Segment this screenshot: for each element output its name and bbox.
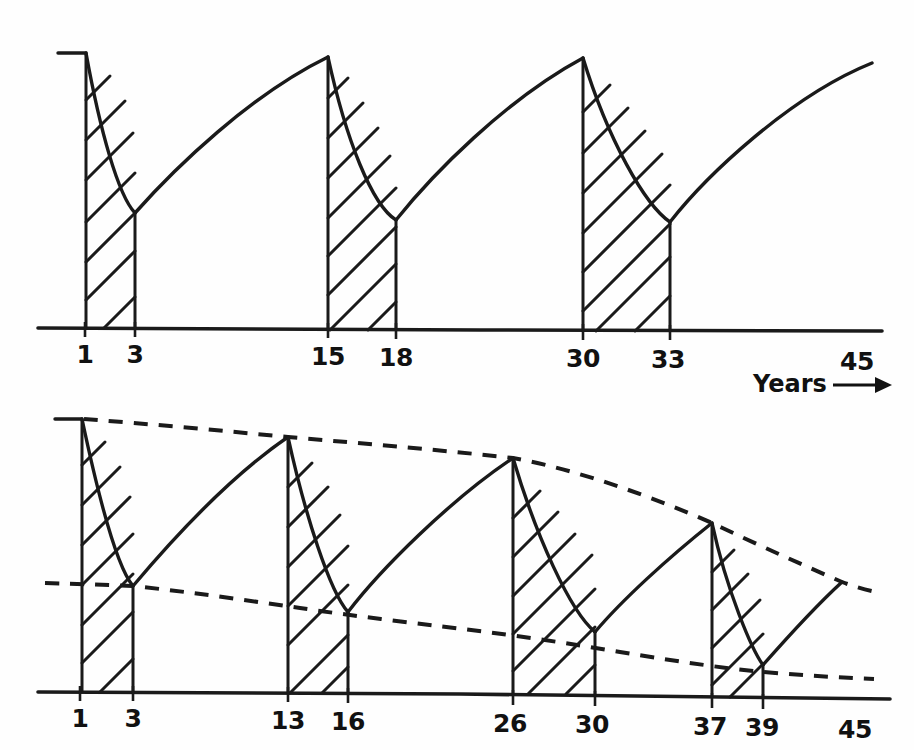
upper-interval-2-hatching bbox=[328, 78, 396, 330]
lower-tick-label-5: 30 bbox=[575, 710, 609, 739]
lower-interval-1-hatching bbox=[82, 442, 133, 692]
lower-tick-label-8: 45 bbox=[838, 715, 872, 744]
sawtooth-decay-figure: 1 3 15 18 30 33 45 --> Years bbox=[0, 0, 914, 750]
lower-interval-3-hatching bbox=[513, 491, 595, 694]
lower-recovery-curve-1 bbox=[133, 437, 288, 586]
upper-recovery-curve-1 bbox=[135, 57, 328, 213]
upper-decay-curve-2 bbox=[328, 57, 396, 220]
upper-recovery-curve-2 bbox=[396, 58, 583, 220]
upper-tick-label-1: 3 bbox=[127, 340, 144, 369]
lower-recovery-curve-4 bbox=[763, 582, 842, 665]
lower-tick-label-4: 26 bbox=[493, 709, 527, 738]
lower-tick-label-0: 1 bbox=[72, 704, 89, 733]
lower-tick-label-1: 3 bbox=[125, 704, 142, 733]
lower-tick-label-6: 37 bbox=[693, 712, 727, 741]
lower-recovery-curve-2 bbox=[348, 458, 513, 612]
upper-chart: 1 3 15 18 30 33 45 bbox=[38, 53, 882, 376]
lower-decay-curve-2 bbox=[288, 437, 348, 612]
lower-tick-label-7: 39 bbox=[745, 713, 779, 742]
lower-upper-envelope bbox=[84, 419, 882, 593]
lower-lower-envelope bbox=[45, 583, 874, 679]
upper-tick-label-2: 15 bbox=[311, 342, 345, 371]
upper-tick-label-0: 1 bbox=[77, 340, 94, 369]
upper-tick-label-5: 33 bbox=[651, 345, 685, 374]
upper-tick-label-3: 18 bbox=[379, 343, 413, 372]
right-arrow-head-icon bbox=[875, 377, 892, 393]
figure-root: 1 3 15 18 30 33 45 --> Years bbox=[0, 0, 914, 750]
lower-interval-4-hatching bbox=[712, 550, 763, 697]
axis-title-years: Years bbox=[752, 370, 827, 398]
lower-recovery-curve-3 bbox=[595, 523, 712, 632]
lower-chart: 1 3 13 16 26 30 37 39 45 bbox=[38, 419, 890, 744]
upper-chart-baseline bbox=[38, 328, 882, 331]
lower-tick-label-2: 13 bbox=[271, 706, 305, 735]
lower-tick-label-3: 16 bbox=[331, 707, 365, 736]
upper-tick-label-6: 45 bbox=[840, 347, 874, 376]
upper-recovery-curve-3 bbox=[670, 63, 872, 222]
upper-tick-label-4: 30 bbox=[566, 344, 600, 373]
lower-interval-2-hatching bbox=[288, 463, 348, 693]
